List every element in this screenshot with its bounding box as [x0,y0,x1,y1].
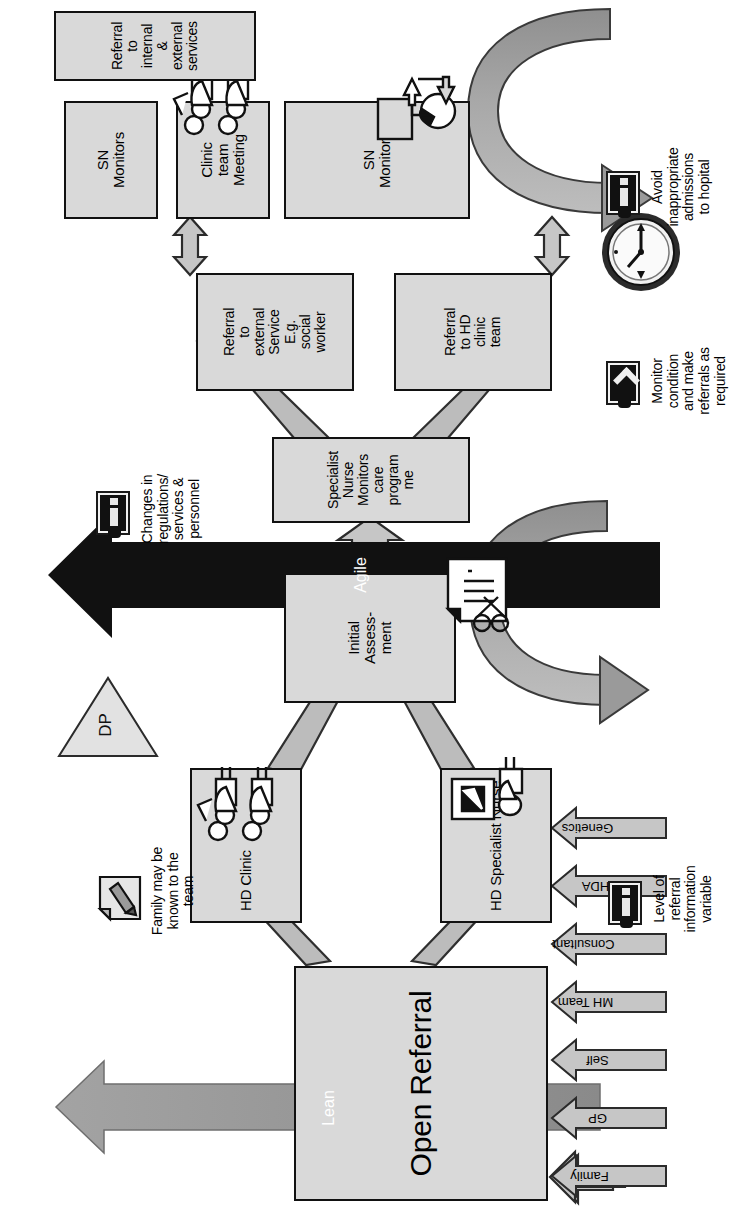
referral-int-ext-line-6: services [185,21,200,71]
source-arrow-genetics[interactable]: Genetics [548,805,668,851]
sn-monitors-care-line-5: program [386,455,401,506]
node-initial-assessment-line-1: Initial [346,621,362,655]
annotation-family-known: Family may be known to the team [150,821,197,961]
node-sn-monitors-2[interactable]: SN Monitors [64,101,158,219]
node-hd-clinic-label: HD Clinic [238,850,254,911]
sn-monitors-2-line-2: Monitors [111,132,127,188]
battery-bar-small [622,888,630,895]
node-referral-internal-external[interactable]: Referral to internal & external services [54,11,256,81]
battery-bar-small [620,178,628,185]
source-arrow-mh-team[interactable]: MH Team [548,979,668,1025]
document-pencil-icon [96,871,144,923]
annotation-avoid-line-1: Avoid [650,129,666,245]
annotation-referral-info-line-2: referral [668,847,684,951]
annotation-monitor-line-5: required [713,329,729,433]
battery-icon-referral-info [610,883,640,923]
battery-chevron-icon-monitor [608,363,638,403]
referral-int-ext-line-5: external [170,22,185,70]
source-arrow-family[interactable]: Family [548,1153,668,1199]
annotation-changes-line-2: regulations/ [156,455,172,563]
arrow-assessment-to-sn [338,517,402,575]
battery-bar-large [622,898,630,916]
annotation-changes-line-3: services & [171,455,187,563]
referral-external-line-6: social [298,315,313,350]
source-label-gp: GP [553,1111,643,1126]
source-label-self: Self [553,1053,643,1068]
referral-external-line-5: E.g. [283,320,298,344]
node-open-referral-label: Open Referral [405,991,437,1177]
annotation-referral-info-line-4: variable [699,847,715,951]
source-arrow-consultant[interactable]: Consultant [548,921,668,967]
sn-monitors-care-line-1: Specialist [326,451,341,509]
annotation-avoid-line-4: to hopital [697,129,713,245]
node-specialist-nurse-monitors[interactable]: Specialist Nurse Monitors care program m… [272,437,470,523]
agile-label-wrap: Agile [352,530,370,620]
annotation-monitor-line-2: condition [666,329,682,433]
annotation-referral-info-line-1: Level of [652,847,668,951]
document-scissors-icon [442,545,526,637]
sn-monitors-care-line-6: me [401,470,416,489]
referral-hd-line-1: Referral [443,308,458,356]
network-node-icon [372,65,466,145]
source-arrow-hda[interactable]: HDA [548,863,668,909]
battery-bar-large [620,188,628,206]
sn-monitors-care-line-3: Monitors [356,454,371,506]
source-arrow-self[interactable]: Self [548,1037,668,1083]
battery-bar-small [110,498,118,505]
decoupling-point-label: DP [96,713,116,737]
sn-monitors-care-line-2: Nurse [341,462,356,498]
node-initial-assessment[interactable]: Initial Assess- ment [284,573,456,703]
lean-label: Lean [320,1090,338,1126]
sn-monitors-care-line-4: care [371,467,386,493]
source-arrow-gp[interactable]: GP [548,1095,668,1141]
battery-bar-large [110,508,118,526]
clinic-meeting-line-2: team [215,144,231,177]
sn-monitors-2-line-1: SN [95,150,111,170]
agile-label: Agile [352,557,370,593]
annotation-monitor-line-3: and make [681,329,697,433]
source-label-genetics: Genetics [543,821,633,836]
annotation-changes-line-4: personnel [187,455,203,563]
source-label-mh-team: MH Team [541,995,631,1010]
source-label-family: Family [545,1169,635,1184]
annotation-changes-regulations: Changes in regulations/ services & perso… [140,455,203,563]
clinic-meeting-line-1: Clinic [199,142,215,177]
node-referral-external-service[interactable]: Referral to external Service E.g. social… [196,273,354,391]
referral-external-line-3: external [252,308,267,356]
battery-icon-changes [98,493,128,533]
decoupling-point-label-wrap: DP [96,697,116,753]
annotation-referral-info-level: Level of referral information variable [652,847,715,951]
referral-external-line-7: worker [313,312,328,353]
battery-icon-avoid-admissions [608,173,638,213]
diagram-canvas: Family GP Self MH Team Consultant HDA Ge… [0,0,740,1223]
double-arrows-referral-sn1 [174,217,568,275]
annotation-avoid-line-3: admissions [681,129,697,245]
node-referral-hd-clinic-team[interactable]: Referral to HD clinic team [394,273,552,391]
lean-label-wrap: Lean [320,1063,338,1153]
battery-nub [620,921,633,928]
annotation-family-known-line-1: Family may be [150,821,166,961]
people-group-icon [196,759,292,845]
source-label-consultant: Consultant [539,937,629,952]
referral-external-line-2: to [237,326,252,337]
referral-hd-line-2: to HD [458,315,473,350]
referral-int-ext-line-2: to [125,40,140,51]
node-initial-assessment-line-3: ment [378,622,394,655]
referral-hd-line-4: team [488,317,503,347]
annotation-referral-info-line-3: information [683,847,699,951]
referral-hd-line-3: clinic [473,317,488,347]
annotation-avoid-line-2: inappropriate [666,129,682,245]
referral-external-line-4: Service [267,309,282,354]
battery-nub [618,401,631,408]
sn-monitors-1-line-1: SN [361,150,377,170]
referral-external-line-1: Referral [222,308,237,356]
annotation-family-known-line-3: team [181,821,197,961]
diagram-rotation-wrapper: Family GP Self MH Team Consultant HDA Ge… [0,0,740,1223]
annotation-family-known-line-2: known to the [166,821,182,961]
chevron-right-icon [613,367,640,394]
battery-nub [108,531,121,538]
referral-int-ext-line-3: internal [140,24,155,68]
annotation-changes-line-1: Changes in [140,455,156,563]
annotation-avoid-admissions: Avoid inappropriate admissions to hopita… [650,129,713,245]
annotation-monitor-line-4: referrals as [697,329,713,433]
